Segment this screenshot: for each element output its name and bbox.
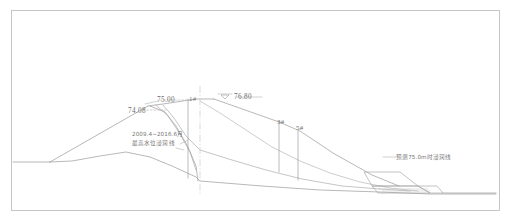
- toe-drain-prism: [364, 172, 418, 186]
- water-level-triangle-icon: [221, 95, 229, 99]
- measured-phreatic-label: 最高水位浸润线: [132, 139, 175, 147]
- borehole-label-3: 3#: [277, 118, 285, 126]
- elevation-label-berm: 74.08: [128, 107, 146, 115]
- elevation-label-crest: 75.00: [157, 96, 175, 104]
- predicted-phreatic-label: 预测75.0m时浸润线: [396, 153, 451, 161]
- leader-measured-note-2: [176, 148, 184, 150]
- predicted-phreatic-line: [200, 101, 418, 191]
- downstream-slope-line: [214, 99, 399, 186]
- drawing-frame: [12, 11, 500, 211]
- borehole-label-5: 5#: [296, 124, 304, 132]
- drawing-canvas: 75.00 74.08 76.80 1# 3# 5# 2009.4~2016.6…: [0, 0, 511, 221]
- elevation-label-water: 76.80: [234, 93, 252, 101]
- toe-drain-outer-wedge: [418, 186, 443, 193]
- borehole-label-1: 1#: [189, 95, 197, 103]
- measured-period-label: 2009.4~2016.6月: [132, 131, 183, 138]
- dam-cross-section-drawing: 75.00 74.08 76.80 1# 3# 5# 2009.4~2016.6…: [0, 0, 511, 221]
- upstream-fill-boundary: [156, 105, 196, 170]
